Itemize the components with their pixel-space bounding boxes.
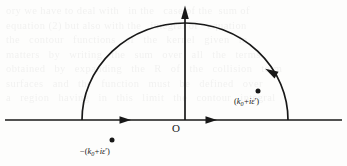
imaginary-axis-arrowhead: [181, 6, 189, 20]
contour-diagram-svg: [0, 0, 347, 166]
pole-label-positive-close: ): [256, 96, 259, 106]
real-axis-arrowhead-left: [120, 116, 132, 123]
real-axis-arrowhead-right: [206, 116, 218, 123]
pole-label-negative: −(k0+iε′): [80, 146, 110, 157]
pole-dot-negative: [110, 138, 115, 143]
pole-dot-positive: [256, 89, 261, 94]
pole-label-positive: (k0+iε′): [234, 96, 259, 107]
pole-label-negative-close: ): [107, 146, 110, 156]
origin-label: O: [172, 122, 180, 134]
figure-canvas: ory we have to deal with in the case of …: [0, 0, 347, 166]
pole-label-negative-plus-i: +i: [94, 146, 102, 156]
